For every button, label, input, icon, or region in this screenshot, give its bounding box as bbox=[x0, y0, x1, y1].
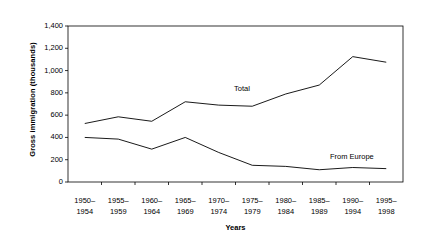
x-axis-tick-label: 1965–1969 bbox=[169, 196, 203, 222]
x-tick-label-line2: 1994 bbox=[336, 207, 370, 218]
x-axis-tick-label: 1960–1964 bbox=[135, 196, 169, 222]
x-tick-label-line1: 1975– bbox=[236, 196, 270, 207]
series-label-from-europe: From Europe bbox=[330, 152, 374, 161]
x-axis-tick-label: 1950–1954 bbox=[68, 196, 102, 222]
x-tick-label-line2: 1998 bbox=[370, 207, 404, 218]
x-tick-label-line1: 1970– bbox=[202, 196, 236, 207]
x-tick-label-line2: 1979 bbox=[236, 207, 270, 218]
x-tick-label-line2: 1969 bbox=[169, 207, 203, 218]
x-axis-tick-label: 1980–1984 bbox=[269, 196, 303, 222]
x-tick-label-line1: 1980– bbox=[269, 196, 303, 207]
x-tick-label-line1: 1950– bbox=[68, 196, 102, 207]
x-tick-label-line2: 1989 bbox=[303, 207, 337, 218]
x-tick-label-line1: 1960– bbox=[135, 196, 169, 207]
x-axis-tick-label: 1985–1989 bbox=[303, 196, 337, 222]
x-axis-tick-label: 1970–1974 bbox=[202, 196, 236, 222]
x-tick-label-line2: 1959 bbox=[102, 207, 136, 218]
x-tick-label-line1: 1965– bbox=[169, 196, 203, 207]
x-axis-tick-label: 1955–1959 bbox=[102, 196, 136, 222]
x-tick-label-line1: 1985– bbox=[303, 196, 337, 207]
x-tick-label-line1: 1990– bbox=[336, 196, 370, 207]
x-axis-tick-label: 1990–1994 bbox=[336, 196, 370, 222]
x-tick-label-line2: 1984 bbox=[269, 207, 303, 218]
x-tick-label-line2: 1964 bbox=[135, 207, 169, 218]
x-tick-label-line2: 1974 bbox=[202, 207, 236, 218]
x-axis-tick-label: 1995–1998 bbox=[370, 196, 404, 222]
immigration-line-chart: Gross immigration (thousands) 0200400600… bbox=[0, 0, 442, 246]
x-axis-tick-labels: 1950–19541955–19591960–19641965–19691970… bbox=[68, 196, 403, 222]
x-tick-label-line1: 1995– bbox=[370, 196, 404, 207]
x-axis-title: Years bbox=[68, 223, 403, 232]
x-tick-label-line1: 1955– bbox=[102, 196, 136, 207]
x-axis-tick-label: 1975–1979 bbox=[236, 196, 270, 222]
series-label-total: Total bbox=[234, 84, 250, 93]
x-tick-label-line2: 1954 bbox=[68, 207, 102, 218]
